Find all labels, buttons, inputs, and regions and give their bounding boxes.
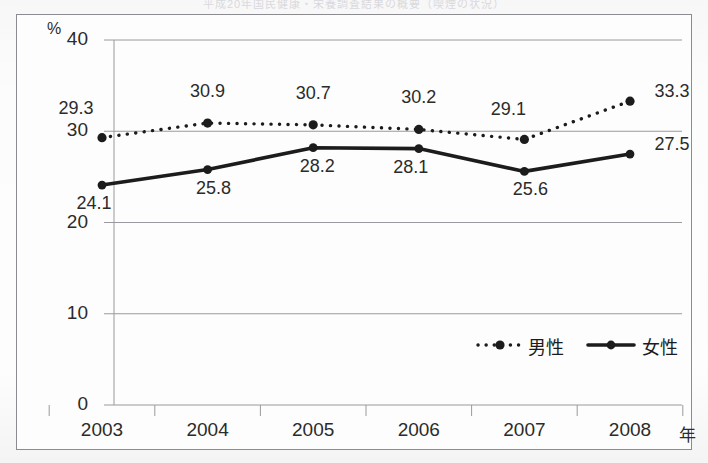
y-axis-tick-label-0: 0	[20, 393, 88, 415]
data-label-男性-2007: 29.1	[480, 99, 536, 120]
x-axis-tick-label-2008: 2008	[575, 419, 685, 441]
x-axis-unit-label: 年	[672, 421, 702, 446]
y-axis-tick-label-30: 30	[20, 119, 88, 141]
data-label-男性-2003: 29.3	[48, 98, 104, 119]
data-label-女性-2004: 25.8	[186, 178, 242, 199]
data-label-男性-2005: 30.7	[285, 83, 341, 104]
series-male-line	[97, 97, 634, 145]
data-label-女性-2006: 28.1	[383, 157, 439, 178]
x-axis-tick-label-2005: 2005	[258, 419, 368, 441]
y-axis-unit-label: %	[47, 20, 61, 38]
data-label-女性-2008: 27.5	[644, 134, 700, 155]
x-axis-tick-label-2007: 2007	[469, 419, 579, 441]
y-axis-tick-label-10: 10	[20, 302, 88, 324]
data-label-女性-2003: 24.1	[66, 193, 122, 214]
data-label-女性-2007: 25.6	[502, 179, 558, 200]
line-chart-plot	[0, 0, 708, 463]
legend-label-female: 女性	[642, 333, 678, 359]
legend-label-male: 男性	[528, 333, 564, 359]
data-label-男性-2008: 33.3	[644, 81, 700, 102]
x-axis-tick-label-2004: 2004	[153, 419, 263, 441]
data-label-男性-2006: 30.2	[391, 87, 447, 108]
x-axis-tick-label-2006: 2006	[364, 419, 474, 441]
data-label-男性-2004: 30.9	[180, 81, 236, 102]
data-label-女性-2005: 28.2	[289, 156, 345, 177]
x-axis-ticks-group	[49, 405, 683, 416]
x-axis-tick-label-2003: 2003	[47, 419, 157, 441]
